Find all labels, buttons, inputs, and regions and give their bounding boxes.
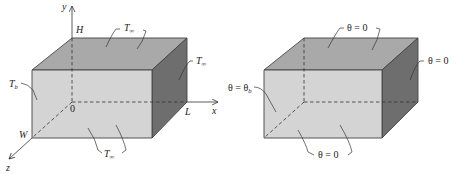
base-boundary-label: θ = θb	[228, 82, 252, 94]
right-box: θ = 0 θ = 0 θ = θb θ = 0	[228, 22, 448, 160]
front-boundary-label: θ = 0	[318, 149, 338, 160]
front-boundary-label: T∞	[104, 148, 115, 160]
front-face	[32, 70, 152, 138]
left-box: y x z H L W 0 T∞ T∞ Tb T∞	[5, 1, 218, 173]
width-label: W	[19, 129, 29, 140]
z-axis	[9, 138, 32, 159]
base-boundary-label: Tb	[9, 78, 19, 90]
front-face	[264, 70, 382, 138]
x-axis-label: x	[211, 105, 217, 116]
origin-label: 0	[70, 103, 75, 114]
side-boundary-label: T∞	[196, 55, 207, 67]
z-axis-label: z	[5, 162, 10, 173]
top-boundary-label: T∞	[124, 22, 135, 34]
top-boundary-label: θ = 0	[347, 22, 367, 33]
fin-diagram: y x z H L W 0 T∞ T∞ Tb T∞	[0, 0, 460, 174]
y-axis-label: y	[61, 1, 67, 12]
length-label: L	[184, 106, 191, 117]
height-label: H	[75, 24, 84, 35]
side-boundary-label: θ = 0	[428, 55, 448, 66]
